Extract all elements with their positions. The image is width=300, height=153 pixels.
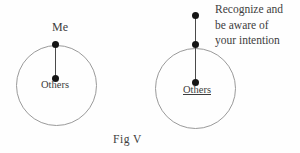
- right-connector-line: [195, 15, 196, 82]
- intention-annotation-line-3: your intention: [215, 33, 300, 49]
- intention-annotation: Recognize and be aware of your intention: [215, 2, 300, 49]
- left-connector-line: [55, 44, 56, 78]
- right-outer-dot: [192, 12, 199, 19]
- me-label: Me: [40, 20, 80, 35]
- intention-annotation-line-1: Recognize and: [215, 2, 300, 18]
- left-others-label: Others: [30, 79, 80, 90]
- right-boundary-dot: [192, 41, 199, 48]
- figure-canvas: Me Others Others Recognize and be aware …: [0, 0, 300, 153]
- intention-annotation-line-2: be aware of: [215, 18, 300, 34]
- right-others-label: Others: [172, 84, 222, 95]
- figure-caption: Fig V: [100, 133, 155, 145]
- left-me-dot: [52, 41, 59, 48]
